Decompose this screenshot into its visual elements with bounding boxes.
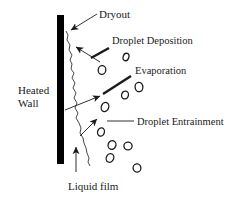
- vapor-droplet: [97, 127, 106, 137]
- liquid-film-label: Liquid film: [68, 180, 119, 192]
- vapor-droplet: [100, 101, 110, 112]
- droplet-deposition-leader: [91, 48, 109, 58]
- liquid-film-interface-line: [66, 31, 90, 166]
- vapor-droplet: [124, 142, 133, 150]
- vapor-droplet: [97, 65, 106, 75]
- vapor-droplet: [134, 82, 143, 92]
- dryout-diagram: Dryout Droplet Deposition Evaporation Dr…: [0, 0, 240, 199]
- dryout-label: Dryout: [99, 8, 130, 20]
- vapor-droplet: [107, 140, 117, 151]
- vapor-droplet: [105, 152, 115, 163]
- vapor-droplet: [132, 163, 141, 172]
- heated-wall-bar: [57, 15, 64, 164]
- droplet-entrainment-label: Droplet Entrainment: [137, 116, 224, 127]
- heated-wall-label-line2: Wall: [18, 97, 39, 109]
- vapor-droplet: [121, 90, 130, 99]
- evaporation-arrow: [65, 96, 100, 110]
- vapor-droplet: [122, 52, 130, 61]
- dryout-arrow: [71, 14, 97, 30]
- droplet-deposition-label: Droplet Deposition: [112, 35, 194, 46]
- heated-wall-label-line1: Heated: [18, 84, 50, 96]
- evaporation-label: Evaporation: [135, 65, 187, 76]
- droplet-entrainment-arrow: [80, 119, 97, 136]
- diagram-svg: Dryout Droplet Deposition Evaporation Dr…: [0, 0, 240, 199]
